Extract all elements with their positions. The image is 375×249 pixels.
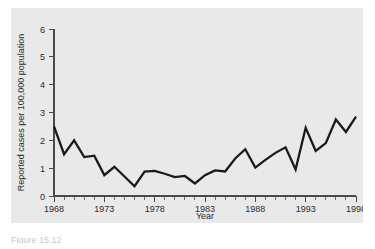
figure-container: 6 5 4 3 2 1 0 19681973197819831988199319…	[0, 0, 375, 249]
x-axis-major-ticks	[54, 196, 356, 202]
caption-strip: Figure 15.12	[11, 236, 121, 243]
x-tick-label: 1988	[245, 204, 265, 214]
x-tick-label: 1968	[44, 204, 64, 214]
x-tick-label: 1998	[346, 204, 363, 214]
y-axis-title: Reported cases per 100,000 population	[16, 34, 26, 192]
x-tick-label: 1978	[145, 204, 165, 214]
y-tick-label: 4	[40, 80, 45, 90]
y-tick-label: 5	[40, 52, 45, 62]
caption-fragment: Figure 15.12	[11, 236, 121, 243]
y-tick-label: 6	[40, 25, 45, 35]
line-chart: 6 5 4 3 2 1 0 19681973197819831988199319…	[11, 8, 363, 223]
y-tick-label: 2	[40, 136, 45, 146]
x-axis-title: Year	[196, 211, 214, 221]
data-series-line	[54, 117, 356, 187]
x-tick-label: 1993	[296, 204, 316, 214]
y-axis-tick-labels: 6 5 4 3 2 1 0	[40, 25, 45, 202]
y-tick-label: 0	[40, 192, 45, 202]
y-tick-label: 1	[40, 164, 45, 174]
y-tick-label: 3	[40, 108, 45, 118]
y-axis-ticks	[49, 29, 54, 196]
chart-panel: 6 5 4 3 2 1 0 19681973197819831988199319…	[11, 8, 363, 223]
x-tick-label: 1973	[94, 204, 114, 214]
